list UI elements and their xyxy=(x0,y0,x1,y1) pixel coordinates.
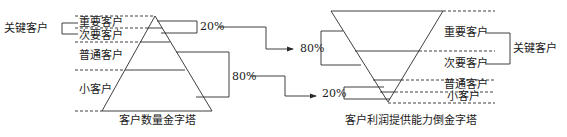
right-pct-80: 80% xyxy=(300,43,324,55)
right-tier-secondary: 次要客户 xyxy=(444,58,488,70)
right-pyramid-title: 客户利润提供能力倒金字塔 xyxy=(345,115,477,127)
right-pyramid-outline xyxy=(331,11,443,102)
right-80pct-bracket xyxy=(321,31,361,65)
right-tier-important: 重要客户 xyxy=(444,27,488,39)
left-80pct-bracket xyxy=(176,52,229,97)
left-key-customer-label: 关键客户 xyxy=(4,23,48,35)
arrow-20-to-80 xyxy=(218,27,293,49)
left-tier-secondary: 次要客户 xyxy=(79,30,123,42)
left-pct-80: 80% xyxy=(232,71,256,83)
left-pct-20: 20% xyxy=(200,21,224,33)
arrow-80-to-20 xyxy=(250,76,316,96)
left-pyramid-title: 客户数量金字塔 xyxy=(119,115,196,127)
left-tier-ordinary: 普通客户 xyxy=(79,50,123,62)
right-tier-small: 小客户 xyxy=(447,91,480,103)
right-pct-20: 20% xyxy=(322,88,346,100)
right-key-bracket xyxy=(485,33,510,64)
left-20pct-bracket xyxy=(157,21,197,33)
left-tier-small: 小客户 xyxy=(79,84,112,96)
right-key-customer-label: 关键客户 xyxy=(513,43,557,55)
right-20pct-bracket xyxy=(344,87,390,99)
left-key-bracket xyxy=(62,23,78,34)
left-tier-important: 重要客户 xyxy=(79,17,123,29)
